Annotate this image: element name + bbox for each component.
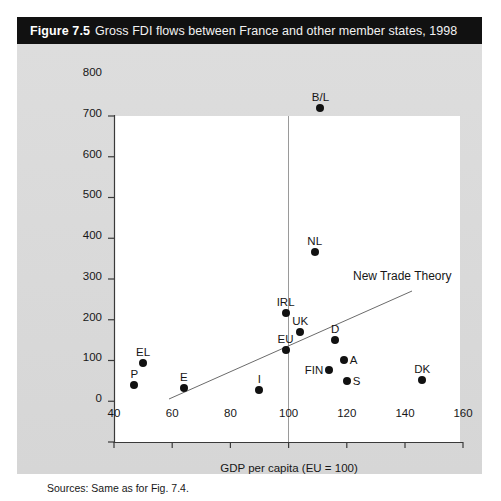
x-tick-label: 160: [453, 407, 472, 419]
data-point: [343, 377, 351, 385]
data-point-label: E: [180, 371, 188, 383]
data-point: [180, 384, 188, 392]
y-tick-label: 800: [67, 66, 102, 78]
data-point: [340, 356, 348, 364]
y-tick-label: 500: [67, 188, 102, 200]
y-tick-label: 200: [67, 311, 102, 323]
y-tick-label: 600: [67, 148, 102, 160]
data-point: [282, 346, 290, 354]
data-point-label: UK: [292, 315, 308, 327]
data-point-label: A: [350, 354, 358, 366]
data-point-label: DK: [414, 363, 430, 375]
data-point-label: EU: [278, 333, 294, 345]
y-tick-label: 0: [67, 392, 102, 404]
data-point-label: I: [258, 373, 261, 385]
data-point: [296, 328, 304, 336]
trend-line-label: New Trade Theory: [353, 269, 452, 283]
y-tick-label: 400: [67, 229, 102, 241]
data-point-label: IRL: [277, 296, 295, 308]
y-tick-label: 100: [67, 351, 102, 363]
data-point-label: P: [131, 368, 139, 380]
x-tick-label: 60: [166, 407, 179, 419]
figure-panel: 800 700 600 500 400 300 200 100 0 40 60 …: [17, 44, 482, 474]
data-point: [282, 309, 290, 317]
figure-caption: Gross FDI flows between France and other…: [95, 24, 457, 38]
x-tick-label: 140: [395, 407, 414, 419]
figure-title-bar: Figure 7.5 Gross FDI flows between Franc…: [17, 17, 482, 44]
x-tick-label: 40: [108, 407, 121, 419]
data-point-label: FIN: [305, 364, 324, 376]
x-tick-label: 80: [224, 407, 237, 419]
x-axis-ticks: [114, 442, 463, 448]
figure-container: Figure 7.5 Gross FDI flows between Franc…: [0, 0, 501, 501]
data-point-label: D: [331, 323, 339, 335]
y-tick-label: 300: [67, 270, 102, 282]
x-tick-label: 120: [337, 407, 356, 419]
source-note: Sources: Same as for Fig. 7.4.: [47, 482, 189, 494]
x-axis-title: GDP per capita (EU = 100): [114, 462, 464, 474]
data-point: [316, 104, 324, 112]
x-tick-label: 100: [279, 407, 298, 419]
data-point: [311, 248, 319, 256]
data-point-label: NL: [307, 235, 322, 247]
y-tick-label: 700: [67, 107, 102, 119]
figure-number: Figure 7.5: [30, 24, 90, 38]
data-point-label: B/L: [312, 91, 329, 103]
data-point-label: S: [353, 375, 361, 387]
data-point-label: EL: [136, 346, 150, 358]
